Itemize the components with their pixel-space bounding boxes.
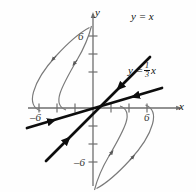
arrow-one-third-right	[135, 95, 139, 96]
fraction-denominator: 3	[144, 70, 150, 79]
arrow-y-equals-x-upper	[119, 84, 123, 88]
phase-portrait-figure: x y –6 6 6 –6 y = x y = 1 3 x	[0, 0, 196, 192]
x-tick-label-6: 6	[144, 112, 150, 123]
x-axis-label: x	[179, 100, 184, 112]
one-third-fraction: 1 3	[144, 62, 150, 80]
y-tick-label-6: 6	[78, 31, 84, 42]
y-tick-label-neg6: –6	[74, 157, 85, 168]
trajectory-upper-inner	[59, 26, 92, 110]
arrow-one-third-left	[48, 121, 52, 122]
one-third-label-prefix: y =	[128, 65, 143, 76]
arrow-y-equals-x-lower	[64, 139, 68, 143]
trajectory-lower-inner	[95, 106, 128, 190]
x-tick-label-neg6: –6	[30, 112, 41, 123]
one-third-label-suffix: x	[151, 65, 156, 76]
eigenline-label-y-equals-one-third-x: y = 1 3 x	[128, 62, 156, 80]
arrow-upper-outer	[53, 56, 56, 60]
axis-lines	[28, 14, 180, 186]
phase-portrait-canvas	[0, 0, 196, 192]
fraction-numerator: 1	[144, 62, 150, 70]
eigenline-label-y-equals-x: y = x	[131, 11, 154, 22]
y-axis-label: y	[95, 6, 100, 18]
arrow-lower-outer	[130, 156, 133, 160]
